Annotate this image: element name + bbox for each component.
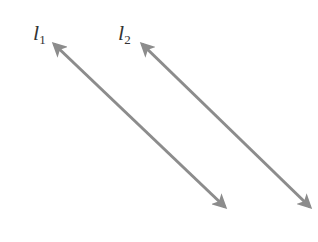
label-l2-subscript: 2 (124, 32, 131, 47)
label-l1-subscript: 1 (39, 32, 46, 47)
line-l1 (54, 44, 225, 207)
diagram-canvas: l1 l2 (0, 0, 318, 242)
parallel-lines-figure (0, 0, 318, 242)
line-l2 (142, 44, 310, 207)
label-l1: l1 (33, 22, 46, 46)
label-l2: l2 (118, 22, 131, 46)
